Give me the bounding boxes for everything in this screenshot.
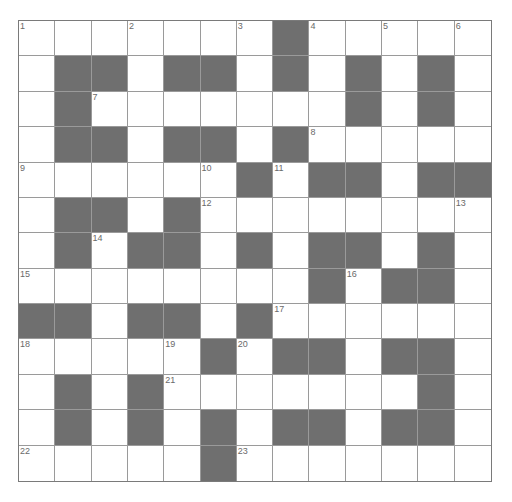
answer-cell[interactable]	[128, 163, 164, 198]
answer-cell[interactable]	[382, 233, 418, 268]
answer-cell[interactable]	[92, 21, 128, 56]
answer-cell[interactable]: 5	[382, 21, 418, 56]
answer-cell[interactable]	[201, 304, 237, 339]
answer-cell[interactable]	[237, 56, 273, 91]
answer-cell[interactable]: 22	[19, 446, 55, 481]
answer-cell[interactable]	[455, 339, 491, 374]
answer-cell[interactable]	[92, 375, 128, 410]
answer-cell[interactable]	[455, 269, 491, 304]
answer-cell[interactable]	[382, 198, 418, 233]
answer-cell[interactable]	[455, 304, 491, 339]
answer-cell[interactable]	[273, 269, 309, 304]
answer-cell[interactable]	[382, 375, 418, 410]
answer-cell[interactable]	[418, 127, 454, 162]
answer-cell[interactable]: 7	[92, 92, 128, 127]
answer-cell[interactable]: 20	[237, 339, 273, 374]
answer-cell[interactable]	[237, 410, 273, 445]
answer-cell[interactable]: 9	[19, 163, 55, 198]
answer-cell[interactable]	[237, 127, 273, 162]
answer-cell[interactable]	[455, 127, 491, 162]
answer-cell[interactable]	[455, 56, 491, 91]
answer-cell[interactable]	[19, 56, 55, 91]
answer-cell[interactable]	[309, 92, 345, 127]
answer-cell[interactable]	[273, 446, 309, 481]
answer-cell[interactable]: 10	[201, 163, 237, 198]
answer-cell[interactable]	[128, 446, 164, 481]
answer-cell[interactable]: 6	[455, 21, 491, 56]
answer-cell[interactable]	[455, 446, 491, 481]
answer-cell[interactable]	[382, 92, 418, 127]
answer-cell[interactable]: 11	[273, 163, 309, 198]
answer-cell[interactable]	[55, 269, 91, 304]
answer-cell[interactable]: 16	[346, 269, 382, 304]
answer-cell[interactable]	[346, 127, 382, 162]
answer-cell[interactable]: 4	[309, 21, 345, 56]
answer-cell[interactable]	[455, 233, 491, 268]
answer-cell[interactable]	[455, 375, 491, 410]
answer-cell[interactable]	[55, 446, 91, 481]
answer-cell[interactable]: 21	[164, 375, 200, 410]
answer-cell[interactable]	[273, 233, 309, 268]
answer-cell[interactable]	[128, 127, 164, 162]
answer-cell[interactable]	[346, 21, 382, 56]
answer-cell[interactable]: 15	[19, 269, 55, 304]
answer-cell[interactable]	[19, 410, 55, 445]
answer-cell[interactable]	[346, 304, 382, 339]
answer-cell[interactable]	[164, 163, 200, 198]
answer-cell[interactable]	[128, 198, 164, 233]
answer-cell[interactable]	[201, 92, 237, 127]
answer-cell[interactable]	[92, 304, 128, 339]
answer-cell[interactable]: 1	[19, 21, 55, 56]
answer-cell[interactable]	[92, 163, 128, 198]
answer-cell[interactable]	[128, 92, 164, 127]
answer-cell[interactable]	[19, 198, 55, 233]
answer-cell[interactable]	[309, 375, 345, 410]
answer-cell[interactable]	[309, 198, 345, 233]
answer-cell[interactable]	[201, 21, 237, 56]
answer-cell[interactable]	[346, 198, 382, 233]
answer-cell[interactable]: 13	[455, 198, 491, 233]
answer-cell[interactable]	[19, 233, 55, 268]
answer-cell[interactable]	[273, 92, 309, 127]
answer-cell[interactable]: 18	[19, 339, 55, 374]
answer-cell[interactable]	[201, 233, 237, 268]
answer-cell[interactable]	[128, 269, 164, 304]
answer-cell[interactable]	[128, 339, 164, 374]
answer-cell[interactable]	[273, 198, 309, 233]
answer-cell[interactable]	[455, 410, 491, 445]
answer-cell[interactable]	[346, 375, 382, 410]
answer-cell[interactable]	[164, 92, 200, 127]
answer-cell[interactable]: 17	[273, 304, 309, 339]
answer-cell[interactable]	[382, 446, 418, 481]
answer-cell[interactable]	[164, 446, 200, 481]
answer-cell[interactable]	[418, 446, 454, 481]
answer-cell[interactable]	[309, 56, 345, 91]
answer-cell[interactable]	[418, 198, 454, 233]
answer-cell[interactable]	[309, 446, 345, 481]
answer-cell[interactable]	[92, 339, 128, 374]
answer-cell[interactable]	[237, 198, 273, 233]
answer-cell[interactable]	[382, 163, 418, 198]
answer-cell[interactable]	[164, 410, 200, 445]
answer-cell[interactable]	[55, 21, 91, 56]
answer-cell[interactable]	[19, 127, 55, 162]
answer-cell[interactable]: 3	[237, 21, 273, 56]
answer-cell[interactable]	[19, 375, 55, 410]
answer-cell[interactable]	[164, 21, 200, 56]
answer-cell[interactable]: 19	[164, 339, 200, 374]
answer-cell[interactable]	[19, 92, 55, 127]
answer-cell[interactable]: 14	[92, 233, 128, 268]
answer-cell[interactable]	[346, 446, 382, 481]
answer-cell[interactable]	[92, 410, 128, 445]
answer-cell[interactable]	[418, 21, 454, 56]
answer-cell[interactable]	[201, 269, 237, 304]
answer-cell[interactable]	[273, 375, 309, 410]
answer-cell[interactable]	[55, 339, 91, 374]
answer-cell[interactable]: 12	[201, 198, 237, 233]
answer-cell[interactable]	[201, 375, 237, 410]
answer-cell[interactable]: 23	[237, 446, 273, 481]
answer-cell[interactable]	[128, 56, 164, 91]
answer-cell[interactable]	[382, 56, 418, 91]
answer-cell[interactable]	[237, 269, 273, 304]
answer-cell[interactable]	[92, 269, 128, 304]
